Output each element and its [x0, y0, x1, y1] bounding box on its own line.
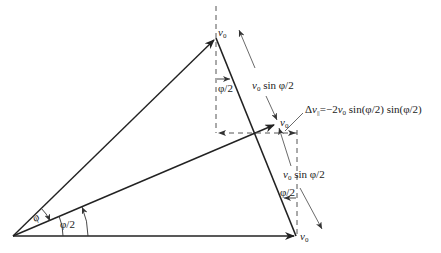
velocity-vector-diagram: v0 v0 v0 φ φ/2 φ/2 φ/2 v0 sin φ/2 v0 sin…: [0, 0, 441, 253]
dimension-arrow-upper-a: [239, 30, 255, 68]
vector-top: [13, 40, 214, 236]
vector-top-label: v0: [218, 26, 227, 40]
dashed-arrowhead-right: [288, 130, 296, 136]
dimension-arrow-lower-a: [279, 128, 291, 166]
angle-half-base-label: φ/2: [60, 218, 75, 230]
angle-half-right-label: φ/2: [280, 186, 295, 198]
vector-bottom-label: v0: [300, 230, 309, 244]
chord-line: [216, 38, 296, 236]
angle-half-top-label: φ/2: [218, 82, 233, 94]
angle-phi-label: φ: [30, 210, 42, 223]
dimension-upper-label: v0 sin φ/2: [252, 79, 294, 93]
angle-arc-full: [41, 208, 50, 221]
delta-v-parallel-label: Δv||=−2v0 sin(φ/2) sin(φ/2): [305, 103, 422, 117]
dimension-arrow-lower-b: [300, 188, 322, 229]
vector-middle-label: v0: [280, 116, 289, 130]
dimension-lower-label: v0 sin φ/2: [283, 168, 325, 182]
dimension-arrow-upper-b: [266, 96, 277, 120]
angle-arc-half-outer: [82, 207, 88, 236]
vector-middle: [13, 125, 274, 236]
